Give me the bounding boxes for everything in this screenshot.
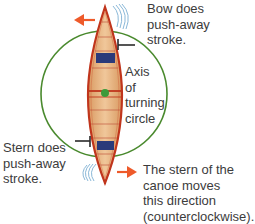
bow-seat	[96, 53, 115, 63]
stern-paddle-marker	[75, 136, 90, 147]
direction-label: The stern of the canoe moves this direct…	[143, 162, 254, 224]
axis-dot	[101, 89, 109, 97]
bow-water-ripples-icon	[113, 4, 128, 29]
bow-label: Bow does push-away stroke.	[147, 1, 210, 48]
stern-arrow-right-icon	[117, 166, 137, 178]
stern-label: Stern does push-away stroke.	[3, 140, 66, 187]
stern-water-ripples-icon	[83, 164, 96, 181]
axis-label: Axis of turning circle	[125, 64, 165, 126]
bow-arrow-left-icon	[74, 14, 95, 26]
stern-seat	[97, 141, 114, 150]
bow-paddle-marker	[118, 39, 135, 50]
